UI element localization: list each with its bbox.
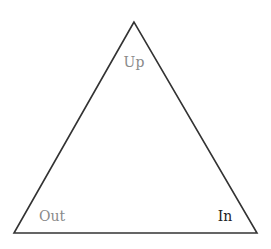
triangle-diagram: Up Out In (0, 0, 271, 249)
label-up: Up (124, 54, 145, 70)
label-in: In (218, 208, 233, 224)
label-out: Out (39, 208, 65, 224)
